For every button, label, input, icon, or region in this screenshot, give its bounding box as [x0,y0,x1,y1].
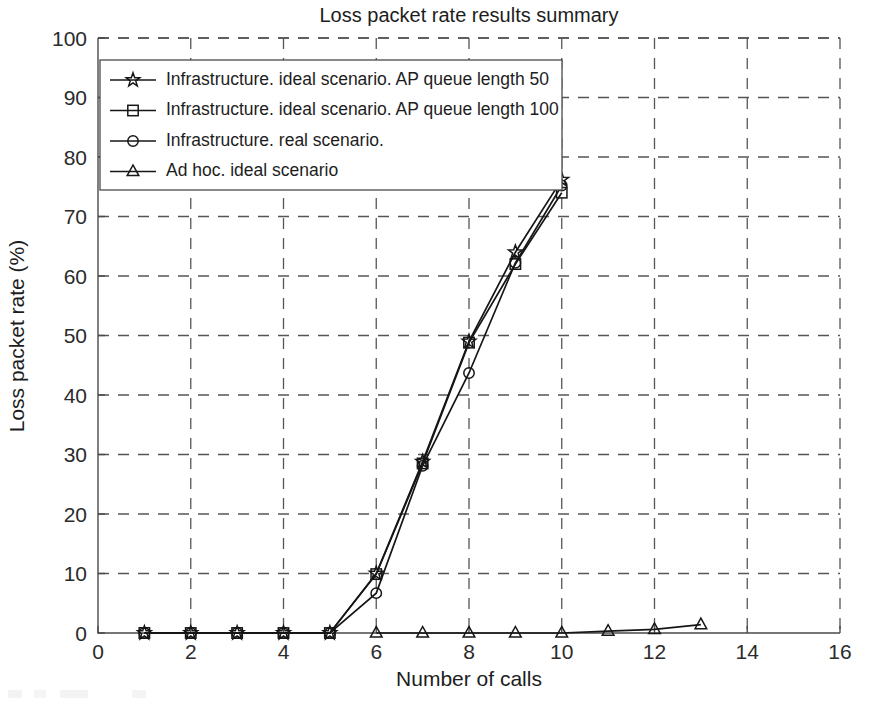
x-tick-label: 4 [278,640,290,663]
x-tick-label: 14 [736,640,760,663]
y-tick-label: 0 [75,622,87,645]
loss-packet-rate-chart: 02468101214160102030405060708090100 Loss… [0,0,870,710]
x-tick-label: 2 [185,640,197,663]
x-tick-label: 10 [550,640,573,663]
legend-item-1[interactable]: Infrastructure. ideal scenario. AP queue… [110,99,559,119]
legend-item-label: Infrastructure. real scenario. [166,130,384,150]
y-tick-label: 50 [64,324,87,347]
x-tick-label: 12 [643,640,666,663]
legend-item-label: Ad hoc. ideal scenario [166,160,338,180]
y-tick-label: 10 [64,562,87,585]
y-tick-label: 80 [64,146,87,169]
y-tick-label: 40 [64,384,87,407]
y-tick-label: 30 [64,443,87,466]
legend-item-0[interactable]: Infrastructure. ideal scenario. AP queue… [110,69,549,89]
legend-item-label: Infrastructure. ideal scenario. AP queue… [166,69,549,89]
chart-title: Loss packet rate results summary [320,4,619,26]
y-tick-label: 70 [64,205,87,228]
x-axis-title: Number of calls [396,667,542,690]
legend: Infrastructure. ideal scenario. AP queue… [100,60,562,190]
x-tick-label: 0 [92,640,104,663]
y-tick-label: 60 [64,265,87,288]
x-tick-label: 8 [463,640,475,663]
legend-item-label: Infrastructure. ideal scenario. AP queue… [166,99,559,119]
chart-figure: 02468101214160102030405060708090100 Loss… [0,0,870,710]
y-tick-label: 100 [52,27,87,50]
scan-artifact [8,690,158,698]
y-tick-label: 90 [64,86,87,109]
y-axis-title: Loss packet rate (%) [5,240,28,433]
y-tick-label: 20 [64,503,87,526]
x-tick-label: 16 [828,640,851,663]
x-tick-label: 6 [370,640,382,663]
